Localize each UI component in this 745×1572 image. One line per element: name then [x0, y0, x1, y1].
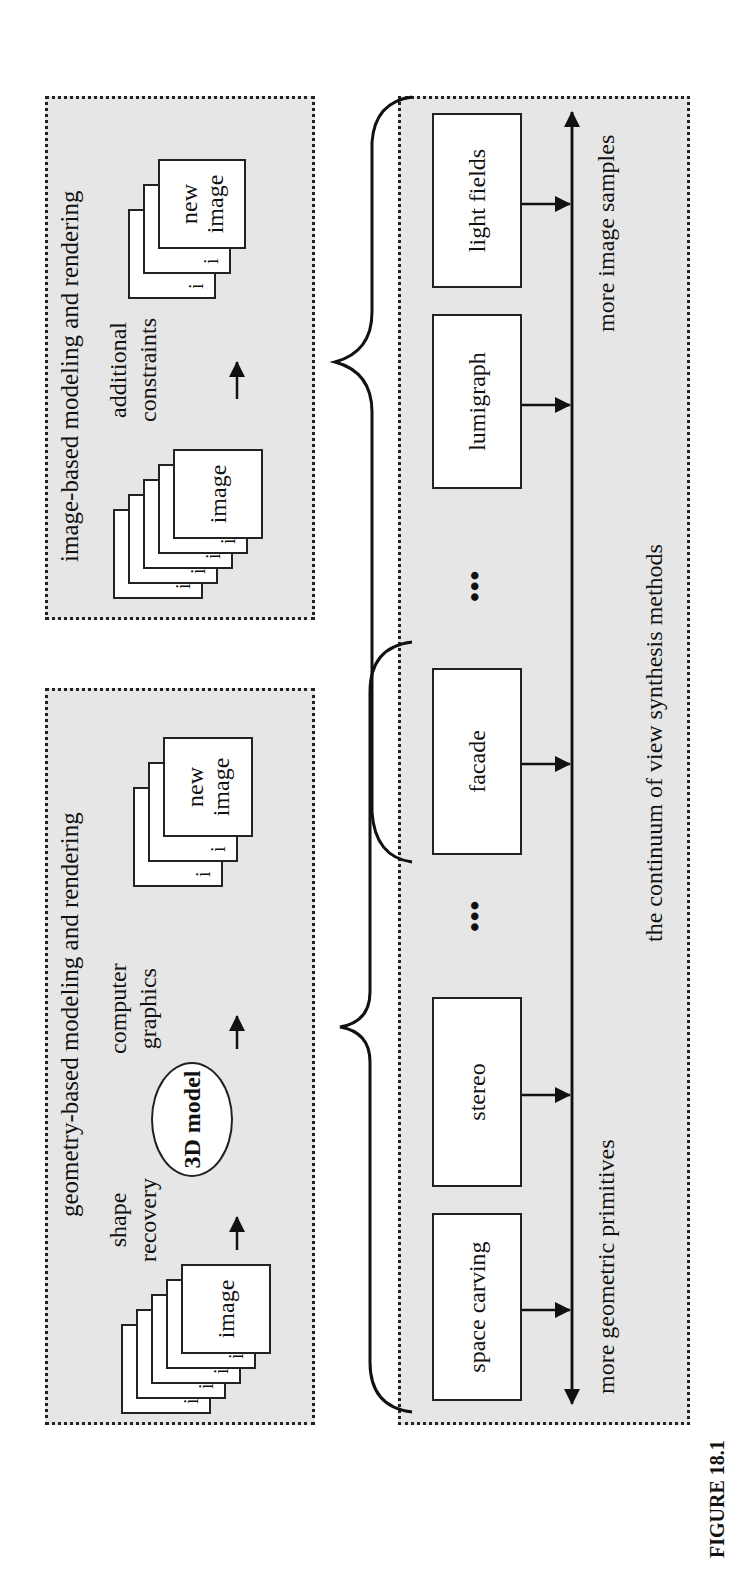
- connectors: [0, 0, 745, 1572]
- image-brace: [335, 97, 412, 862]
- figure-stage: geometry-based modeling and rendering i …: [0, 0, 745, 1572]
- geometry-brace: [340, 642, 412, 1412]
